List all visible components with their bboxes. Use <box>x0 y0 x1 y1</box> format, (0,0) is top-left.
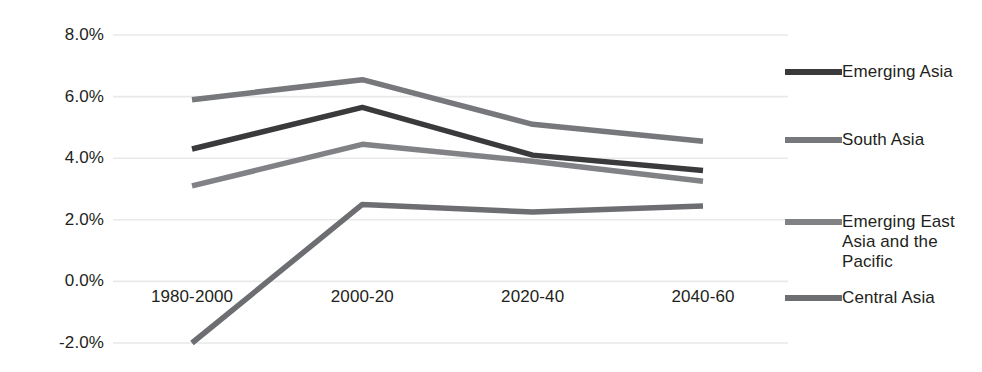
legend-swatch-icon <box>785 219 842 225</box>
legend-entry[interactable]: South Asia <box>785 130 924 150</box>
legend-swatch-icon <box>785 137 842 143</box>
legend-entry[interactable]: Emerging Asia <box>785 62 953 82</box>
line-chart: 8.0%6.0%4.0%2.0%0.0%-2.0% 1980-20002000-… <box>0 0 982 372</box>
series-line <box>192 204 703 343</box>
plot-area <box>0 0 982 372</box>
legend-swatch-icon <box>785 295 842 301</box>
y-tick-label: 0.0% <box>18 271 104 291</box>
legend-label: Emerging East Asia and the Pacific <box>842 212 970 272</box>
legend-label: South Asia <box>842 130 924 150</box>
y-tick-label: 2.0% <box>18 210 104 230</box>
x-tick-label: 2040-60 <box>671 287 734 307</box>
legend-entry[interactable]: Emerging East Asia and the Pacific <box>785 212 970 272</box>
legend-swatch-icon <box>785 69 842 75</box>
legend-label: Emerging Asia <box>842 62 953 82</box>
series-line <box>192 107 703 170</box>
y-tick-label: 6.0% <box>18 87 104 107</box>
series-lines <box>192 80 703 343</box>
x-tick-label: 1980-2000 <box>151 287 233 307</box>
y-tick-label: -2.0% <box>18 333 104 353</box>
x-tick-label: 2000-20 <box>331 287 394 307</box>
y-tick-label: 4.0% <box>18 148 104 168</box>
legend-label: Central Asia <box>842 288 935 308</box>
x-tick-label: 2020-40 <box>501 287 564 307</box>
y-tick-label: 8.0% <box>18 25 104 45</box>
legend-entry[interactable]: Central Asia <box>785 288 935 308</box>
